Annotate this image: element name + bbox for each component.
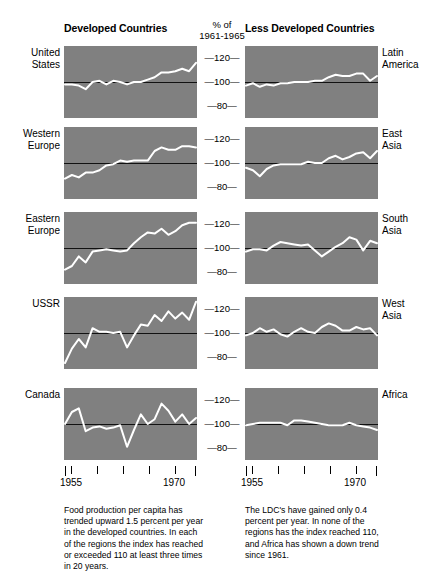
data-line-canada [65,404,196,447]
y-tick-label-100: —100— [199,157,245,168]
x-axis-tick [65,466,66,476]
x-axis-tick [149,466,150,474]
x-axis-tick [278,466,279,474]
y-tick-label-80: —80— [199,351,245,362]
row-label-line: Asia [382,140,443,152]
row-label-line: South [382,213,443,225]
row-label-line: West [382,298,443,310]
row-label-line: Latin [382,47,443,59]
y-tick-label-80: —80— [199,100,245,111]
row-label-line: Canada [0,389,60,401]
chart-panel-south-asia[interactable] [245,212,378,284]
y-tick-label-120: —120— [199,303,245,314]
chart-panel-eastern-europe[interactable] [64,212,197,284]
row-label-left-2: EasternEurope [0,213,60,236]
row-label-right-4: Africa [382,389,443,401]
data-line-south-asia [246,237,377,256]
y-tick-label-100: —100— [199,76,245,87]
x-axis-tick [195,466,196,476]
x-axis-label-1955: 1955 [60,477,82,488]
x-axis-tick [252,466,253,474]
y-tick-label-100: —100— [199,418,245,429]
column-header-developed: Developed Countries [64,22,167,34]
row-label-line: Eastern [0,213,60,225]
chart-panel-ussr[interactable] [64,297,197,369]
row-label-left-1: WesternEurope [0,128,60,151]
row-label-right-3: WestAsia [382,298,443,321]
y-tick-label-100: —100— [199,327,245,338]
row-label-right-0: LatinAmerica [382,47,443,70]
y-tick-label-80: —80— [199,266,245,277]
row-label-line: USSR [0,298,60,310]
data-line-africa [246,420,377,430]
data-line-eastern-europe [65,223,196,270]
x-axis-tick [97,466,98,474]
row-label-line: Western [0,128,60,140]
y-tick-label-120: —120— [199,52,245,63]
x-axis-tick [356,466,357,474]
row-label-line: Asia [382,225,443,237]
chart-panel-canada[interactable] [64,388,197,460]
data-line-ussr [65,302,196,363]
row-label-line: Europe [0,225,60,237]
y-axis-title: % of 1961-1965 [199,20,245,41]
data-line-united-states [65,63,196,89]
x-axis-developed: 19551970 [64,466,197,492]
data-line-latin-america [246,74,377,87]
y-tick-label-80: —80— [199,181,245,192]
row-label-line: Europe [0,140,60,152]
y-tick-label-120: —120— [199,218,245,229]
x-axis-tick [304,466,305,474]
y-tick-label-100: —100— [199,242,245,253]
x-axis-tick [71,466,72,474]
x-axis-tick [246,466,247,476]
x-axis-tick [175,466,176,474]
x-axis-tick [376,466,377,476]
row-label-line: States [0,59,60,71]
row-label-line: Africa [382,389,443,401]
row-label-left-4: Canada [0,389,60,401]
chart-panel-united-states[interactable] [64,46,197,118]
y-axis-title-line1: % of [199,20,245,31]
y-axis-title-line2: 1961-1965 [199,31,245,42]
chart-panel-africa[interactable] [245,388,378,460]
x-axis-label-1955: 1955 [241,477,263,488]
chart-panel-east-asia[interactable] [245,127,378,199]
row-label-left-0: UnitedStates [0,47,60,70]
row-label-left-3: USSR [0,298,60,310]
row-label-line: America [382,59,443,71]
chart-panel-west-asia[interactable] [245,297,378,369]
y-tick-label-120: —120— [199,394,245,405]
data-line-western-europe [65,146,196,178]
x-axis-tick [330,466,331,474]
chart-panel-western-europe[interactable] [64,127,197,199]
y-tick-label-120: —120— [199,133,245,144]
x-axis-less-developed: 19551970 [245,466,378,492]
x-axis-label-1970: 1970 [344,477,366,488]
row-label-right-2: SouthAsia [382,213,443,236]
data-line-east-asia [246,151,377,176]
data-line-west-asia [246,323,377,336]
chart-panel-latin-america[interactable] [245,46,378,118]
column-header-less-developed: Less Developed Countries [245,22,374,34]
caption-developed: Food production per capita has trended u… [64,505,204,572]
caption-less-developed: The LDC's have gained only 0.4 percent p… [245,505,385,561]
row-label-line: Asia [382,310,443,322]
x-axis-label-1970: 1970 [163,477,185,488]
y-tick-label-80: —80— [199,442,245,453]
x-axis-tick [123,466,124,474]
row-label-line: East [382,128,443,140]
row-label-line: United [0,47,60,59]
row-label-right-1: EastAsia [382,128,443,151]
